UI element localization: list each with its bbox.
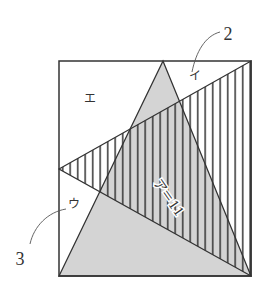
callout-2-number: 2: [224, 24, 233, 44]
callout-3-leader: [30, 209, 66, 244]
diagram-canvas: ア＝11 ア＝11 エ イ ウ 2 3: [0, 0, 279, 298]
region-u-label: ウ: [68, 197, 80, 211]
geometry-figure: ア＝11 ア＝11 エ イ ウ 2 3: [0, 0, 279, 298]
region-i-label: イ: [189, 69, 201, 83]
region-e-label: エ: [84, 92, 96, 106]
callout-2-leader: [192, 32, 220, 72]
callout-3-number: 3: [16, 249, 25, 269]
